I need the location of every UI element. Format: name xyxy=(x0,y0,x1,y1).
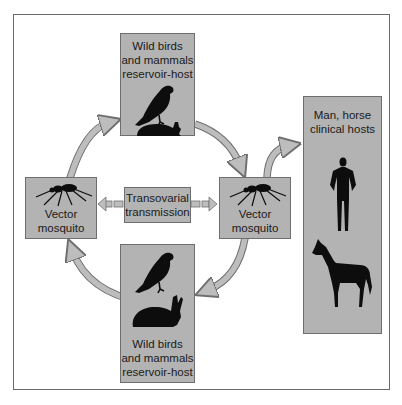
vector-left-line2: mosquito xyxy=(26,221,96,235)
rabbit-icon xyxy=(131,293,183,329)
transovarial-line2: transmission xyxy=(125,205,190,219)
reservoir-top-line1: Wild birds xyxy=(121,39,194,53)
vector-right-line1: Vector xyxy=(220,207,290,221)
mosquito-icon xyxy=(228,181,288,207)
vector-right-line2: mosquito xyxy=(220,221,290,235)
reservoir-host-top-box: Wild birds and mammals reservoir-host xyxy=(120,33,195,136)
vector-mosquito-right-box: Vector mosquito xyxy=(219,177,291,239)
bird-icon xyxy=(133,251,177,297)
human-icon xyxy=(328,157,358,233)
reservoir-bottom-line1: Wild birds xyxy=(121,337,194,351)
mosquito-icon xyxy=(34,181,94,207)
transovarial-line1: Transovarial xyxy=(125,191,190,205)
clinical-hosts-box: Man, horse clinical hosts xyxy=(303,96,382,334)
reservoir-top-line2: and mammals xyxy=(121,53,194,67)
rabbit-icon xyxy=(135,122,183,136)
reservoir-host-bottom-box: Wild birds and mammals reservoir-host xyxy=(120,244,195,383)
reservoir-bottom-line3: reservoir-host xyxy=(121,365,194,379)
clinical-hosts-line1: Man, horse xyxy=(304,108,381,122)
reservoir-bottom-line2: and mammals xyxy=(121,351,194,365)
reservoir-top-line3: reservoir-host xyxy=(121,67,194,81)
clinical-hosts-line2: clinical hosts xyxy=(304,122,381,136)
transovarial-transmission-box: Transovarial transmission xyxy=(124,187,191,223)
horse-icon xyxy=(310,237,378,311)
vector-left-line1: Vector xyxy=(26,207,96,221)
vector-mosquito-left-box: Vector mosquito xyxy=(25,177,97,239)
